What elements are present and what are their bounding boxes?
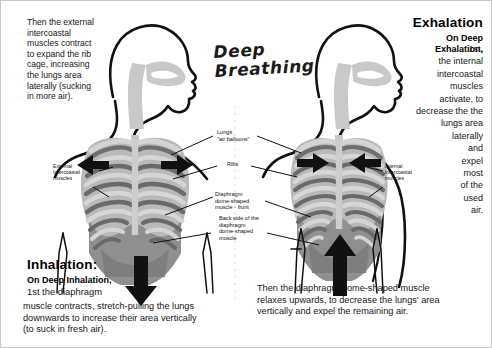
inhalation-subhead: On Deep Inhalation, bbox=[27, 275, 112, 285]
left-contract-arrow bbox=[297, 153, 329, 173]
exhalation-subhead: On Deep bbox=[343, 33, 483, 43]
callout-diaphragm-front: Diaphragm dome-shaped muscle - front bbox=[215, 191, 267, 211]
callout-diaphragm-back: Back side of the diaphragm dome-shaped m… bbox=[219, 215, 269, 241]
exhalation-bottom-text: Then the diaphragm dome-shaped muscle re… bbox=[257, 283, 485, 318]
inhalation-line2: 1st the diaphragm bbox=[27, 287, 102, 298]
callout-internal-intercostal: Internal Intercoastal muscles bbox=[385, 163, 431, 181]
right-contract-arrow bbox=[349, 153, 381, 173]
inhalation-top-text: Then the external intercoastal muscles c… bbox=[27, 17, 131, 102]
deep-breathing-diagram: Then the external intercoastal muscles c… bbox=[0, 0, 492, 348]
callout-ribs: Ribs bbox=[227, 161, 259, 168]
inhalation-heading: Inhalation: bbox=[27, 257, 97, 272]
exhalation-body-text: 1st, the internal intercoastal muscles a… bbox=[385, 43, 483, 217]
inhalation-body-text: muscle contracts, stretch-pulling the lu… bbox=[23, 301, 247, 336]
diaphragm-down-arrow bbox=[125, 256, 157, 306]
callout-external-intercostal: External Intercoastal muscles bbox=[53, 163, 99, 181]
exhalation-heading: Exhalation bbox=[343, 15, 483, 30]
diagram-title: Deep Breathing bbox=[213, 36, 335, 81]
right-expand-arrow bbox=[161, 155, 193, 175]
callout-lungs: Lungs "air balloons" bbox=[217, 129, 263, 142]
